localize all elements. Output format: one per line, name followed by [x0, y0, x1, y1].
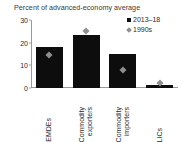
y-axis-line — [31, 20, 32, 88]
x-tick-label: Commodityimporters — [105, 90, 142, 142]
y-tick-mark — [29, 88, 31, 89]
y-tick-mark — [29, 65, 31, 66]
bar-group — [73, 20, 100, 88]
plot-area: 0102030 — [31, 20, 178, 88]
y-tick-mark — [29, 20, 31, 21]
x-tick-label: LICs — [141, 90, 178, 142]
y-tick-label: 0 — [24, 85, 28, 92]
x-tick-label-line: exporters — [86, 107, 94, 136]
y-tick-label: 20 — [20, 39, 28, 46]
x-tick-label-line: LICs — [156, 128, 164, 142]
y-tick-label: 30 — [20, 17, 28, 24]
chart-title: Percent of advanced-economy average — [14, 3, 140, 12]
x-tick-label-line: importers — [123, 107, 131, 136]
chart-container: Percent of advanced-economy average 2013… — [0, 0, 183, 142]
x-tick-label: EMDEs — [31, 90, 68, 142]
x-tick-label-line: Commodity — [78, 107, 86, 142]
x-tick-label: Commodityexporters — [68, 90, 105, 142]
y-tick-mark — [29, 42, 31, 43]
bar-group — [36, 20, 63, 88]
x-axis-labels: EMDEsCommodityexportersCommodityimporter… — [31, 90, 178, 142]
bar-group — [146, 20, 173, 88]
y-tick-label: 10 — [20, 62, 28, 69]
x-tick-label-line: Commodity — [115, 107, 123, 142]
x-tick-label-line: EMDEs — [45, 118, 53, 142]
bar[interactable] — [73, 35, 100, 88]
bar-group — [109, 20, 136, 88]
